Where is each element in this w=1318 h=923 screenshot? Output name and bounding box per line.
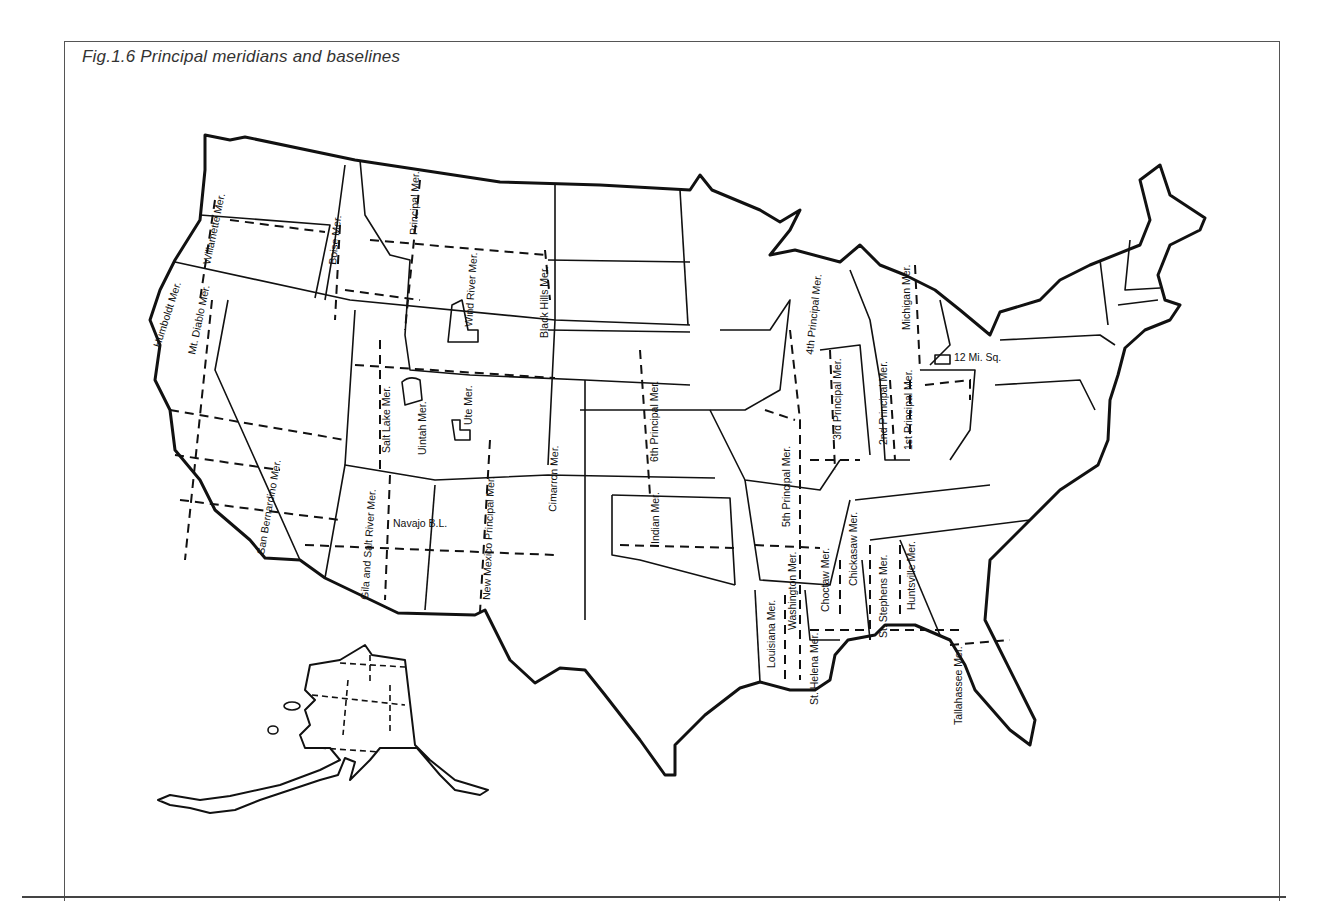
meridian-label: Willamette Mer.: [200, 192, 227, 265]
meridian-label: Huntsville Mer.: [905, 541, 917, 610]
meridian-labels: Humboldt Mer.Willamette Mer.Mt. Diablo M…: [150, 171, 1001, 725]
meridian-label: Wind River Mer.: [462, 252, 479, 327]
us-meridians-map: Humboldt Mer.Willamette Mer.Mt. Diablo M…: [0, 0, 1318, 923]
meridian-label: St. Stephens Mer.: [877, 555, 889, 638]
meridian-label: Mt. Diablo Mer.: [185, 284, 211, 356]
meridian-label: 6th Principal Mer.: [648, 381, 660, 462]
meridian-label: Louisiana Mer.: [765, 600, 777, 668]
meridian-label: Gila and Salt River Mer.: [358, 489, 378, 600]
meridian-label: Principal Mer.: [407, 171, 421, 235]
meridian-label: Uintah Mer.: [416, 401, 428, 455]
meridian-label: 12 Mi. Sq.: [954, 351, 1001, 363]
conus-outline: [150, 135, 1205, 775]
meridian-label: 4th Principal Mer.: [803, 273, 823, 355]
meridian-label: San Bernardino Mer.: [254, 458, 283, 555]
state-borders: [175, 160, 1160, 682]
meridian-label: St. Helena Mer.: [808, 633, 820, 705]
special-survey-areas: [402, 300, 950, 440]
meridian-label: Navajo B.L.: [393, 517, 447, 529]
meridian-label: Ute Mer.: [462, 385, 474, 425]
meridian-label: Salt Lake Mer.: [380, 386, 392, 453]
meridian-label: Washington Mer.: [786, 552, 798, 630]
meridian-label: Boise Mer.: [326, 215, 343, 266]
meridian-label: Indian Mer.: [649, 492, 661, 544]
meridian-label: Michigan Mer.: [900, 265, 912, 330]
meridian-label: Choctaw Mer.: [819, 548, 831, 612]
meridian-label: Tallahassee Mer.: [952, 646, 964, 725]
meridian-label: 2nd Principal Mer.: [877, 361, 889, 445]
meridian-label: 1st Principal Mer.: [902, 369, 914, 450]
meridian-label: 5th Principal Mer.: [780, 446, 792, 527]
meridian-label: New Mexico Principal Mer.: [480, 476, 496, 600]
meridian-label: 3rd Principal Mer.: [831, 358, 843, 440]
meridian-label: Black Hills Mer.: [538, 266, 550, 338]
meridian-label: Humboldt Mer.: [150, 280, 183, 349]
meridian-label: Chickasaw Mer.: [847, 512, 859, 586]
meridian-label: Cimarron Mer.: [546, 445, 560, 512]
alaska-outline: [158, 645, 488, 813]
